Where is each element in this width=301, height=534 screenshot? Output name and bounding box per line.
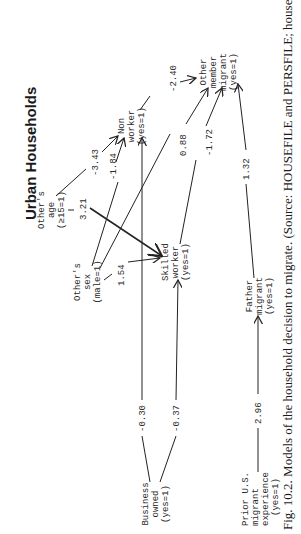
node-skilled-worker: Skilled worker (yes=1) bbox=[161, 243, 191, 281]
svg-text:(yes=1): (yes=1) bbox=[181, 243, 191, 281]
edge-skilled-to-other-migrant: -1.72 bbox=[180, 88, 222, 244]
node-prior-us-migrant: Prior U.S. migrant experience (yes=1) bbox=[241, 472, 281, 526]
figure-caption: Fig. 10.2. Models of the household decis… bbox=[280, 0, 295, 530]
svg-text:worker: worker bbox=[171, 246, 181, 278]
svg-text:-0.30: -0.30 bbox=[138, 405, 148, 432]
edge-others-sex-to-skilled-worker: 1.54 bbox=[104, 258, 160, 286]
svg-text:Father: Father bbox=[245, 280, 255, 312]
svg-text:Non: Non bbox=[117, 118, 127, 134]
svg-text:(≥15=1): (≥15=1) bbox=[57, 191, 67, 229]
svg-text:-3.43: -3.43 bbox=[91, 149, 101, 176]
svg-text:1.54: 1.54 bbox=[117, 264, 127, 286]
svg-text:Business: Business bbox=[141, 482, 151, 525]
svg-text:3.21: 3.21 bbox=[79, 198, 89, 220]
svg-text:member: member bbox=[209, 56, 219, 88]
svg-text:migrant: migrant bbox=[255, 277, 265, 315]
svg-text:Prior U.S.: Prior U.S. bbox=[241, 472, 251, 526]
svg-text:(male=1): (male=1) bbox=[93, 260, 103, 303]
svg-text:Skilled: Skilled bbox=[161, 243, 171, 281]
svg-text:Other's: Other's bbox=[73, 263, 83, 301]
node-business-owned: Business owned (yes=1) bbox=[141, 482, 171, 525]
node-others-sex: Other's sex (male=1) bbox=[73, 260, 103, 303]
svg-text:(yes=1): (yes=1) bbox=[265, 277, 275, 315]
node-other-member-migrant: Other member migrant (yes=1) bbox=[199, 53, 239, 91]
svg-text:experience: experience bbox=[261, 472, 271, 526]
edge-non-worker-to-other-migrant: -2.40 bbox=[140, 65, 196, 110]
svg-text:(yes=1): (yes=1) bbox=[161, 485, 171, 523]
edge-business-to-non-worker: -0.30 bbox=[138, 138, 150, 482]
rotated-figure: Urban Households Other's age (≥15=1) Oth… bbox=[0, 0, 301, 534]
svg-text:Other's: Other's bbox=[37, 191, 47, 229]
svg-text:owned: owned bbox=[151, 490, 161, 517]
edge-business-to-skilled-worker: -0.37 bbox=[160, 280, 182, 482]
node-father-migrant: Father migrant (yes=1) bbox=[245, 277, 275, 315]
svg-text:Other: Other bbox=[199, 58, 209, 85]
path-diagram: Urban Households Other's age (≥15=1) Oth… bbox=[0, 0, 301, 534]
node-others-age: Other's age (≥15=1) bbox=[37, 191, 67, 229]
svg-text:-2.40: -2.40 bbox=[169, 65, 179, 92]
svg-text:age: age bbox=[47, 202, 57, 218]
svg-text:2.96: 2.96 bbox=[254, 402, 264, 424]
edge-others-age-to-skilled-worker: 3.21 bbox=[68, 198, 162, 256]
svg-text:0.88: 0.88 bbox=[179, 134, 189, 156]
svg-text:(yes=1): (yes=1) bbox=[229, 53, 239, 91]
svg-text:-1.72: -1.72 bbox=[205, 129, 215, 156]
edge-prior-us-to-father: 2.96 bbox=[254, 316, 264, 472]
svg-text:-0.37: -0.37 bbox=[172, 405, 182, 432]
svg-text:1.32: 1.32 bbox=[242, 158, 252, 180]
svg-text:migrant: migrant bbox=[251, 488, 261, 526]
svg-text:worker: worker bbox=[127, 110, 137, 142]
svg-text:sex: sex bbox=[83, 274, 93, 290]
edge-father-to-other-migrant: 1.32 bbox=[238, 84, 254, 278]
svg-text:migrant: migrant bbox=[219, 53, 229, 91]
